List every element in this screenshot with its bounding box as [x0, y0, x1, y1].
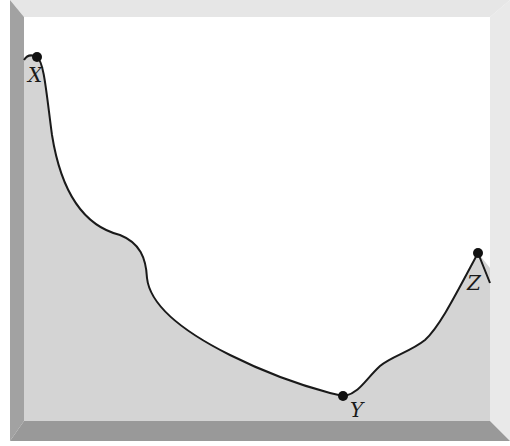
frame-left — [10, 0, 24, 441]
point-z-marker — [473, 248, 483, 258]
point-x-marker — [32, 52, 42, 62]
point-y-marker — [338, 391, 348, 401]
diagram-canvas: X Y Z — [0, 0, 510, 446]
label-x: X — [26, 63, 43, 87]
frame-bottom — [10, 421, 510, 441]
terrain-diagram: X Y Z — [0, 0, 510, 446]
frame-right — [490, 0, 510, 441]
label-y: Y — [350, 398, 365, 422]
label-z: Z — [466, 271, 482, 295]
frame-top — [10, 0, 510, 17]
